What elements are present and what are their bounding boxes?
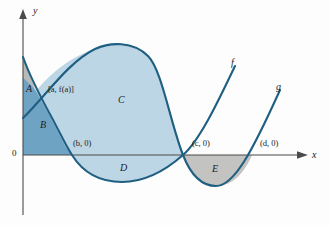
point-label-d: (d, 0) bbox=[260, 139, 278, 148]
origin-label: 0 bbox=[12, 149, 17, 158]
figure-area-between-curves: y x 0 A B C D E [a, f(a)] (b, 0) (c, 0) … bbox=[0, 0, 329, 225]
curve-label-g: g bbox=[276, 82, 281, 92]
x-axis-label: x bbox=[312, 150, 316, 160]
point-label-c: (c, 0) bbox=[192, 139, 210, 148]
point-label-b: (b, 0) bbox=[73, 139, 91, 148]
region-label-A: A bbox=[26, 84, 32, 94]
x-axis-arrow bbox=[297, 151, 308, 159]
point-label-a-fa: [a, f(a)] bbox=[48, 85, 74, 94]
y-axis-label: y bbox=[33, 6, 37, 16]
region-label-D: D bbox=[120, 163, 127, 173]
y-axis-arrow bbox=[19, 9, 27, 19]
region-label-E: E bbox=[212, 164, 218, 174]
region-label-B: B bbox=[40, 120, 46, 130]
plot-canvas bbox=[0, 0, 329, 225]
region-label-C: C bbox=[118, 95, 125, 105]
curve-label-f: f bbox=[231, 58, 234, 68]
